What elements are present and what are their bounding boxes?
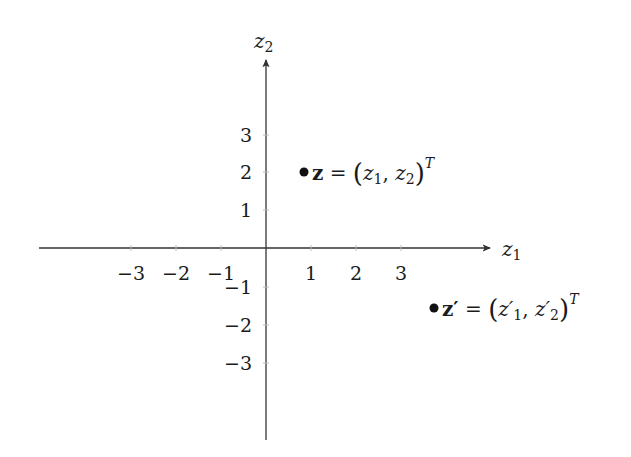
x-tick-label: −3 [117, 262, 145, 284]
x-tick-labels: −3 −2 −1 1 2 3 [117, 262, 407, 284]
y-tick-label: 1 [240, 199, 252, 221]
x-tick-label: 1 [305, 262, 317, 284]
x-tick-label: 2 [350, 262, 362, 284]
y-tick-label: −2 [224, 314, 252, 336]
x-tick-label: 3 [395, 262, 407, 284]
y-tick-label: −3 [224, 352, 252, 374]
y-tick-labels: 3 2 1 −1 −2 −3 [224, 124, 252, 374]
y-tick-label: 3 [240, 124, 252, 146]
point-z [300, 168, 309, 177]
point-z-label: z = (z1, z2)T [312, 155, 436, 188]
y-tick-label: −1 [224, 276, 252, 298]
point-z-prime [430, 304, 439, 313]
point-z-prime-label: z′ = (z′1, z′2)T [442, 291, 580, 324]
coordinate-plane: −3 −2 −1 1 2 3 3 2 1 −1 −2 −3 z1 z2 z = … [0, 0, 631, 457]
x-tick-label: −2 [162, 262, 190, 284]
y-tick-label: 2 [240, 161, 252, 183]
x-axis-label: z1 [501, 237, 521, 263]
y-axis-label: z2 [253, 29, 273, 55]
